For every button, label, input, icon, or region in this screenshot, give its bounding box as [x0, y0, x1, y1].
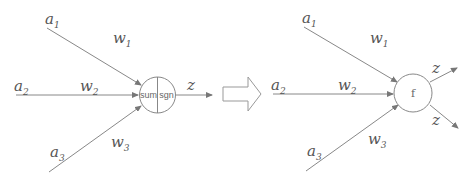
weight-label-w3: w3: [111, 133, 130, 153]
weight-label-w2: w2: [80, 77, 99, 97]
input-label-a1: a1: [45, 10, 60, 30]
node-sum-label: sum: [140, 90, 157, 100]
input-label-a2: a2: [14, 77, 29, 97]
weight-label-w2: w2: [338, 76, 357, 96]
sum-sgn-node: sum sgn: [140, 77, 176, 113]
neuron-diagram: a1 a2 a3 w1 w2 w3 sum sgn z a1 a2 a3 w1 …: [0, 0, 470, 182]
output-label-z-upper: z: [431, 59, 440, 77]
f-node: f: [394, 74, 432, 112]
output-label-z: z: [186, 76, 195, 94]
hollow-right-arrow-icon: [223, 77, 261, 111]
output-label-z-lower: z: [431, 111, 440, 129]
edge-a1: [304, 27, 397, 82]
weight-label-w3: w3: [368, 130, 387, 150]
input-label-a3: a3: [307, 142, 322, 162]
left-perceptron: a1 a2 a3 w1 w2 w3 sum sgn z: [14, 10, 212, 172]
edge-a1: [47, 28, 141, 85]
input-label-a1: a1: [302, 9, 317, 29]
weight-label-w1: w1: [113, 29, 132, 49]
weight-label-w1: w1: [370, 29, 389, 49]
node-sgn-label: sgn: [159, 90, 174, 100]
right-neuron: a1 a2 a3 w1 w2 w3 f z z: [271, 9, 458, 171]
input-label-a3: a3: [50, 143, 65, 163]
input-label-a2: a2: [271, 76, 286, 96]
